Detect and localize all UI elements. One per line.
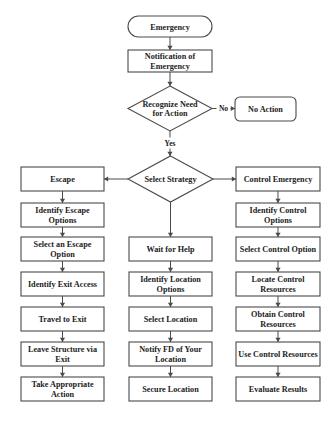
edge-select-strategy-to-control-emergency	[213, 176, 236, 181]
node-locate-control: Locate ControlResources	[236, 272, 320, 296]
edge-emergency-to-notification	[167, 37, 172, 50]
edge-identify-control-to-select-control	[275, 227, 280, 237]
node-use-control: Use Control Resources	[236, 342, 320, 366]
arrowhead	[275, 373, 280, 377]
node-label: Select Location	[144, 315, 198, 324]
node-label: Notification of	[145, 52, 196, 61]
arrowhead	[275, 268, 280, 272]
node-label: Take Appropriate	[31, 380, 93, 389]
node-label: Options	[264, 216, 292, 225]
emergency-response-flowchart: NoYes EmergencyNotification ofEmergencyR…	[0, 0, 336, 423]
edge-locate-control-to-obtain-control	[275, 296, 280, 307]
node-emergency: Emergency	[128, 16, 212, 37]
arrowhead	[275, 233, 280, 237]
node-label: Emergency	[150, 62, 190, 71]
edge-select-location-to-notify-fd	[168, 331, 173, 342]
node-leave-structure: Leave Structure viaExit	[21, 342, 104, 366]
node-select-escape: Select an EscapeOption	[21, 237, 104, 261]
node-label: Identify Control	[250, 206, 308, 215]
node-no-action: No Action	[235, 97, 296, 121]
node-label: Identify Exit Access	[28, 280, 97, 289]
arrowhead	[60, 373, 65, 377]
node-label: Use Control Resources	[238, 350, 317, 359]
node-notify-fd: Notify FD of YourLocation	[129, 342, 212, 366]
node-identify-exit: Identify Exit Access	[21, 272, 104, 296]
edge-notify-fd-to-secure-location	[168, 366, 173, 377]
node-travel-exit: Travel to Exit	[21, 307, 104, 331]
node-escape: Escape	[21, 167, 104, 191]
node-label: Evaluate Results	[249, 385, 307, 394]
edge-select-strategy-to-wait-help	[168, 202, 173, 237]
node-wait-help: Wait for Help	[129, 237, 212, 261]
node-label: Resources	[260, 320, 295, 329]
edge-label: No	[219, 104, 228, 113]
arrowhead	[167, 46, 172, 50]
node-label: Control Emergency	[244, 175, 314, 184]
node-label: Identify Location	[140, 275, 201, 284]
node-label: Select an Escape	[34, 240, 92, 249]
node-label: Location	[155, 355, 186, 364]
arrowhead	[275, 338, 280, 342]
edge-obtain-control-to-use-control	[275, 331, 280, 342]
node-label: Identify Escape	[35, 206, 90, 215]
node-label: No Action	[248, 105, 283, 114]
node-identify-control: Identify ControlOptions	[236, 203, 320, 227]
node-select-control: Select Control Option	[236, 237, 320, 261]
arrowhead	[60, 199, 65, 203]
edge-use-control-to-evaluate	[275, 366, 280, 377]
edge-identify-location-to-select-location	[168, 296, 173, 307]
node-evaluate: Evaluate Results	[236, 377, 320, 401]
edge-select-escape-to-identify-exit	[60, 261, 65, 272]
node-label: Locate Control	[252, 275, 306, 284]
node-label: Secure Location	[142, 385, 199, 394]
node-obtain-control: Obtain ControlResources	[236, 307, 320, 331]
arrowhead	[168, 303, 173, 307]
node-label: Escape	[50, 175, 75, 184]
arrowhead	[231, 106, 235, 111]
node-label: Select Control Option	[240, 245, 317, 254]
node-recognize: Recognize Needfor Action	[128, 86, 212, 131]
node-identify-escape: Identify EscapeOptions	[21, 203, 104, 227]
arrowhead	[275, 303, 280, 307]
node-label: Wait for Help	[146, 245, 195, 254]
node-label: Emergency	[150, 23, 190, 32]
arrowhead	[60, 233, 65, 237]
edge-identify-exit-to-travel-exit	[60, 296, 65, 307]
arrowhead	[168, 373, 173, 377]
node-label: Leave Structure via	[28, 345, 97, 354]
arrowhead	[60, 303, 65, 307]
edge-control-emergency-to-identify-control	[275, 191, 280, 203]
edge-select-strategy-to-escape	[104, 176, 128, 181]
node-select-location: Select Location	[129, 307, 212, 331]
node-label: Obtain Control	[251, 310, 305, 319]
node-label: Option	[50, 250, 75, 259]
arrowhead	[168, 268, 173, 272]
edge-label: Yes	[165, 139, 176, 148]
edge-recognize-to-no-action: No	[212, 104, 235, 113]
node-secure-location: Secure Location	[129, 377, 212, 401]
node-control-emergency: Control Emergency	[236, 167, 320, 191]
edge-travel-exit-to-leave-structure	[60, 331, 65, 342]
edge-leave-structure-to-take-action	[60, 366, 65, 377]
arrowhead	[232, 176, 236, 181]
arrowhead	[168, 338, 173, 342]
node-take-action: Take AppropriateAction	[21, 377, 104, 401]
edge-select-control-to-locate-control	[275, 261, 280, 272]
node-label: Select Strategy	[144, 175, 197, 184]
node-label: Travel to Exit	[38, 315, 86, 324]
node-label: Notify FD of Your	[139, 345, 202, 354]
edge-notification-to-recognize	[167, 72, 172, 86]
node-label: Options	[49, 216, 77, 225]
edge-wait-help-to-identify-location	[168, 261, 173, 272]
edge-escape-to-identify-escape	[60, 191, 65, 203]
arrowhead	[168, 233, 173, 237]
arrowhead	[275, 199, 280, 203]
node-label: for Action	[152, 109, 188, 118]
node-select-strategy: Select Strategy	[128, 156, 213, 202]
arrowhead	[60, 338, 65, 342]
node-identify-location: Identify LocationOptions	[129, 272, 212, 296]
node-label: Exit	[55, 355, 70, 364]
node-notification: Notification ofEmergency	[128, 50, 212, 72]
edge-recognize-to-select-strategy: Yes	[165, 131, 176, 156]
arrowhead	[60, 268, 65, 272]
